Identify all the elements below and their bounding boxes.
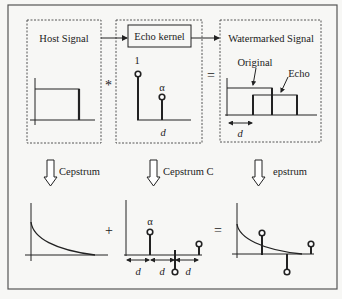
original-label: Original — [238, 57, 273, 68]
host-signal-title: Host Signal — [39, 33, 88, 44]
equals-operator-bottom: = — [214, 223, 222, 238]
transform-arrow-left — [44, 160, 57, 186]
host-cepstrum-plot — [25, 203, 108, 261]
watermarked-signal-title: Watermarked Signal — [228, 33, 314, 44]
transform-label-right: epstrum — [273, 166, 307, 177]
impulse-alpha-label: α — [159, 82, 165, 93]
kernel-delay-label: d — [160, 127, 166, 138]
cepstrum-delay-label-1: d — [135, 266, 141, 277]
watermarked-delay-label: d — [237, 128, 243, 139]
equals-operator-top: = — [207, 68, 215, 83]
echo-kernel-title: Echo kernel — [134, 31, 185, 42]
cepstrum-delay-label-2: d — [159, 266, 165, 277]
kernel-cepstrum-plot — [124, 200, 202, 275]
plus-operator: + — [105, 223, 113, 238]
transform-label-middle: Cepstrum C — [163, 166, 213, 177]
transform-arrow-middle — [147, 160, 160, 186]
host-signal-plot — [30, 78, 95, 125]
echo-hiding-diagram: Host Signal Echo kernel Watermarked Sign… — [0, 0, 342, 299]
transform-label-left: Cepstrum — [59, 166, 100, 177]
echo-kernel-plot — [135, 71, 191, 120]
echo-label: Echo — [288, 68, 310, 79]
cepstrum-delay-label-3: d — [185, 266, 191, 277]
cepstrum-alpha-label: α — [147, 216, 153, 227]
convolve-operator: * — [105, 78, 112, 93]
watermarked-cepstrum-plot — [232, 203, 314, 275]
impulse-1-label: 1 — [134, 55, 139, 66]
transform-arrow-right — [252, 160, 265, 186]
